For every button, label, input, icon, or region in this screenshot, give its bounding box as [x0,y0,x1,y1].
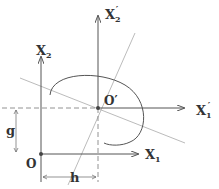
x2-prime-label: X2′ [105,4,121,24]
x2-label: X2 [36,43,52,60]
x1-prime-label: X1′ [196,100,212,120]
x1-label: X1 [145,147,161,164]
h-label: h [70,170,80,185]
origin-prime-point [96,106,100,110]
origin-label: O [26,157,36,171]
g-label: g [6,123,15,138]
rotated-axis-line-1 [20,78,185,143]
rotated-axis-line-2 [68,33,135,185]
coordinate-translation-diagram: X2′ X2 X1′ X1 O O′ g h [0,0,219,189]
ellipse-curve [50,75,144,145]
origin-point [39,152,43,156]
origin-prime-label: O′ [104,94,118,108]
